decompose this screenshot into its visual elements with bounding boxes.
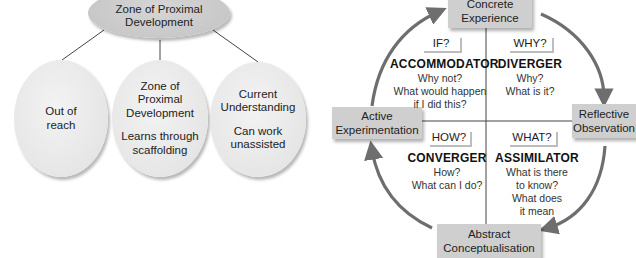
node-title-line: Understanding (221, 101, 296, 115)
description-line: Why not? (390, 72, 490, 85)
root-line1: Zone of Proximal (116, 3, 203, 17)
zpd-node-current-understanding: Current Understanding Can work unassiste… (210, 62, 306, 177)
stage-line: Experience (448, 11, 532, 25)
stage-line: Reflective (572, 107, 636, 121)
stage-reflective-observation: Reflective Observation (572, 104, 636, 138)
node-subtitle-line: Learns through (121, 130, 198, 144)
node-title-line: Proximal (138, 93, 183, 107)
style-accommodator: ACCOMMODATOR (390, 57, 490, 71)
description-line: What does (492, 192, 582, 205)
stage-line: Conceptualisation (437, 241, 541, 255)
converger-description: How? What can I do? (406, 166, 488, 192)
description-line: What is it? (495, 85, 565, 98)
node-subtitle-line: scaffolding (133, 144, 188, 158)
description-line: How? (406, 166, 488, 179)
node-title-line: Out of (45, 105, 76, 119)
description-line: What would happen (390, 85, 490, 98)
stage-line: Abstract (437, 227, 541, 241)
node-title-line: Development (126, 107, 194, 121)
stage-line: Experimentation (332, 123, 422, 137)
node-title-line: reach (47, 119, 76, 133)
stage-line: Active (332, 109, 422, 123)
question-label-what: WHAT? (508, 130, 556, 145)
question-label-why: WHY? (508, 36, 552, 51)
description-line: it mean (492, 205, 582, 218)
node-title-line: Zone of (141, 80, 180, 94)
description-line: Why? (495, 72, 565, 85)
style-converger: CONVERGER (406, 151, 488, 165)
stage-active-experimentation: Active Experimentation (332, 107, 422, 139)
stage-abstract-conceptualisation: Abstract Conceptualisation (437, 224, 541, 258)
style-diverger: DIVERGER (495, 57, 565, 71)
root-line2: Development (125, 16, 193, 30)
node-subtitle-line: unassisted (231, 138, 286, 152)
node-subtitle-line: Can work (234, 125, 283, 139)
zpd-node-out-of-reach: Out of reach (14, 60, 108, 177)
description-line: What can I do? (406, 179, 488, 192)
stage-line: Observation (572, 121, 636, 135)
node-title-line: Current (239, 88, 277, 102)
zpd-node-proximal: Zone of Proximal Development Learns thro… (112, 60, 208, 177)
stage-concrete-experience: Concrete Experience (448, 0, 532, 28)
description-line: to know? (492, 179, 582, 192)
question-label-how: HOW? (428, 130, 470, 145)
assimilator-description: What is there to know? What does it mean (492, 166, 582, 218)
accommodator-description: Why not? What would happen if I did this… (390, 72, 490, 111)
stage-line: Concrete (448, 0, 532, 11)
question-label-if: IF? (422, 36, 460, 51)
style-assimilator: ASSIMILATOR (492, 151, 582, 165)
description-line: What is there (492, 166, 582, 179)
description-line: if I did this? (390, 98, 490, 111)
diverger-description: Why? What is it? (495, 72, 565, 98)
